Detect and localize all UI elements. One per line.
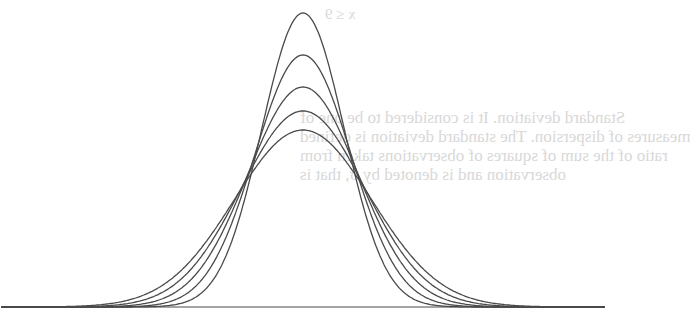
normal-curve — [1, 87, 605, 307]
curves-group — [1, 13, 605, 307]
normal-curve — [1, 130, 605, 307]
normal-curve — [1, 111, 605, 307]
normal-curve — [1, 13, 605, 307]
normal-curve — [1, 55, 605, 307]
